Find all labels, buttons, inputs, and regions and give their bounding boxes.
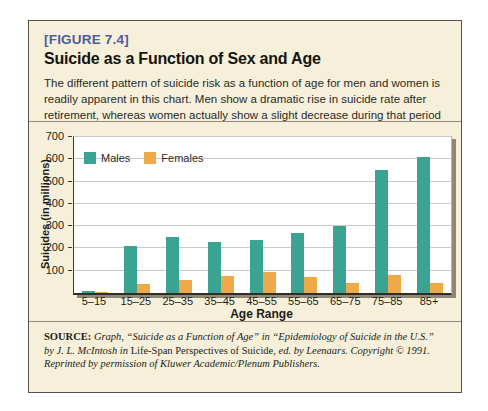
y-tick-label-600: 600 [37, 152, 64, 164]
bar-females-45–55 [263, 272, 276, 293]
y-tick-mark-700 [68, 136, 72, 137]
bar-females-35–45 [221, 276, 234, 293]
y-tick-label-400: 400 [37, 197, 64, 209]
bar-males-55–65 [291, 233, 304, 293]
legend-swatch-males [84, 152, 96, 164]
bar-females-65–75 [346, 283, 359, 293]
y-tick-mark-600 [68, 158, 72, 159]
source-segment-2: Life-Span Perspectives of Suicide, [131, 345, 276, 356]
bar-males-45–55 [250, 240, 263, 293]
bar-males-5–15 [82, 291, 95, 293]
bar-females-5–15 [95, 292, 108, 294]
chart-legend: MalesFemales [84, 152, 204, 164]
y-tick-mark-300 [68, 225, 72, 226]
bar-males-75–85 [375, 170, 388, 293]
gridline-500 [74, 181, 451, 182]
y-tick-mark-500 [68, 181, 72, 182]
figure-header: [FIGURE 7.4] Suicide as a Function of Se… [29, 21, 461, 121]
source-text: Graph, “Suicide as a Function of Age” in… [44, 331, 434, 369]
x-axis-title: Age Range [73, 307, 450, 321]
bar-males-85+ [417, 157, 430, 293]
figure-number-label: [FIGURE 7.4] [44, 32, 446, 47]
y-tick-mark-400 [68, 203, 72, 204]
y-tick-label-700: 700 [37, 130, 64, 142]
legend-swatch-females [144, 152, 156, 164]
bar-males-25–35 [166, 237, 179, 293]
legend-item-females: Females [144, 152, 203, 164]
legend-label-females: Females [161, 152, 203, 164]
bar-females-15–25 [137, 284, 150, 293]
gridline-400 [74, 203, 451, 204]
legend-item-males: Males [84, 152, 130, 164]
figure-title: Suicide as a Function of Sex and Age [44, 50, 446, 68]
y-tick-label-100: 100 [37, 264, 64, 276]
bar-females-85+ [430, 283, 443, 293]
source-label: SOURCE: [44, 331, 91, 342]
source-credit: SOURCE: Graph, “Suicide as a Function of… [29, 322, 461, 371]
bar-females-55–65 [304, 277, 317, 293]
bar-females-75–85 [388, 275, 401, 293]
bar-males-15–25 [124, 246, 137, 293]
bar-males-35–45 [208, 242, 221, 293]
y-tick-label-200: 200 [37, 241, 64, 253]
bar-males-65–75 [333, 226, 346, 293]
bar-chart: Suicides (in millions) 10020030040050060… [29, 122, 461, 321]
y-tick-mark-100 [68, 270, 72, 271]
legend-label-males: Males [101, 152, 130, 164]
plot-area: MalesFemales [73, 136, 452, 295]
y-tick-mark-200 [68, 247, 72, 248]
bar-females-25–35 [179, 280, 192, 293]
figure-description: The different pattern of suicide risk as… [44, 75, 446, 121]
y-tick-label-300: 300 [37, 219, 64, 231]
figure-box: [FIGURE 7.4] Suicide as a Function of Se… [28, 20, 462, 393]
gridline-300 [74, 225, 451, 226]
y-tick-label-500: 500 [37, 175, 64, 187]
